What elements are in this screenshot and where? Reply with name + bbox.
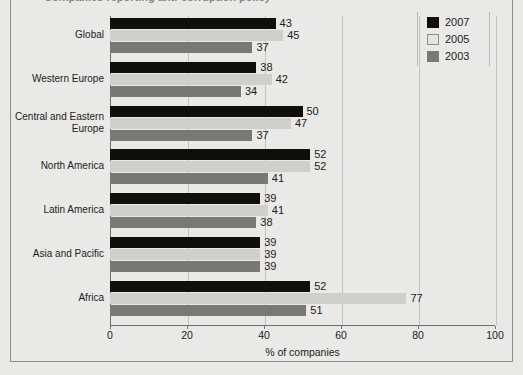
bar-value-label: 41 [268, 171, 284, 185]
category-label-asia-and-pacific: Asia and Pacific [4, 248, 104, 260]
bar-2007[interactable] [110, 62, 256, 73]
chart-title: Companies reporting anti-corruption poli… [44, 0, 464, 3]
bar-2005[interactable] [110, 293, 406, 304]
bar-2005[interactable] [110, 249, 260, 260]
legend-swatch-2007 [427, 17, 439, 28]
x-tick-label-20: 20 [167, 329, 207, 341]
category-label-africa: Africa [4, 292, 104, 304]
chart-figure: Companies reporting anti-corruption poli… [0, 0, 523, 375]
bar-row: 41 [110, 205, 523, 216]
bar-row: 39 [110, 261, 523, 272]
category-label-line: Europe [4, 123, 104, 135]
legend-label-2007: 2007 [445, 16, 469, 29]
category-label-latin-america: Latin America [4, 204, 104, 216]
bar-2007[interactable] [110, 193, 260, 204]
bar-2003[interactable] [110, 261, 260, 272]
x-axis-label: % of companies [110, 346, 495, 358]
bar-value-label: 37 [252, 128, 268, 142]
bar-group: 527751 [110, 281, 523, 319]
bar-group: 394138 [110, 193, 523, 231]
bar-value-label: 38 [256, 215, 272, 229]
legend-label-2003: 2003 [445, 50, 469, 63]
bar-value-label: 52 [310, 279, 326, 293]
x-tick-label-60: 60 [321, 329, 361, 341]
legend-swatch-2005 [427, 34, 439, 45]
bar-row: 38 [110, 217, 523, 228]
bar-2007[interactable] [110, 237, 260, 248]
bar-value-label: 39 [260, 259, 276, 273]
bar-row: 39 [110, 249, 523, 260]
category-label-line: Latin America [4, 204, 104, 216]
category-label-global: Global [4, 29, 104, 41]
bar-2003[interactable] [110, 217, 256, 228]
legend-divider-right [489, 12, 490, 66]
legend-divider-left [417, 12, 418, 66]
bar-value-label: 47 [291, 116, 307, 130]
category-label-line: Asia and Pacific [4, 248, 104, 260]
bar-value-label: 51 [306, 303, 322, 317]
bar-value-label: 37 [252, 40, 268, 54]
category-label-western-europe: Western Europe [4, 73, 104, 85]
bar-2003[interactable] [110, 173, 268, 184]
x-tick-label-80: 80 [398, 329, 438, 341]
category-label-line: Central and Eastern [4, 111, 104, 123]
bar-2003[interactable] [110, 305, 306, 316]
category-label-central-and-eastern-europe: Central and EasternEurope [4, 111, 104, 135]
bar-row: 52 [110, 281, 523, 292]
category-label-line: North America [4, 160, 104, 172]
x-tick-label-100: 100 [475, 329, 515, 341]
bar-2007[interactable] [110, 149, 310, 160]
legend-item-2007[interactable]: 2007 [427, 14, 489, 31]
bar-row: 39 [110, 237, 523, 248]
bar-value-label: 38 [256, 60, 272, 74]
bar-2007[interactable] [110, 281, 310, 292]
bar-2003[interactable] [110, 42, 252, 53]
x-tick-label-0: 0 [90, 329, 130, 341]
bar-row: 41 [110, 173, 523, 184]
bar-value-label: 34 [241, 84, 257, 98]
bar-group: 525241 [110, 149, 523, 187]
category-label-line: Western Europe [4, 73, 104, 85]
bar-group: 393939 [110, 237, 523, 275]
bar-row: 47 [110, 118, 523, 129]
legend-label-2005: 2005 [445, 33, 469, 46]
x-tick-label-40: 40 [244, 329, 284, 341]
legend-item-2005[interactable]: 2005 [427, 31, 489, 48]
bar-row: 39 [110, 193, 523, 204]
bar-value-label: 77 [406, 291, 422, 305]
bar-group: 384234 [110, 62, 523, 100]
bar-value-label: 45 [283, 28, 299, 42]
bar-2007[interactable] [110, 106, 303, 117]
bar-group: 504737 [110, 106, 523, 144]
bar-row: 51 [110, 305, 523, 316]
legend-swatch-2003 [427, 51, 439, 62]
figure-bottom-band [0, 365, 523, 375]
bar-value-label: 42 [272, 72, 288, 86]
bar-2007[interactable] [110, 18, 276, 29]
chart-legend: 200720052003 [427, 14, 489, 65]
category-label-line: Global [4, 29, 104, 41]
bar-2005[interactable] [110, 205, 268, 216]
category-label-north-america: North America [4, 160, 104, 172]
bar-value-label: 52 [310, 159, 326, 173]
bar-row: 50 [110, 106, 523, 117]
bar-2003[interactable] [110, 86, 241, 97]
bar-row: 37 [110, 130, 523, 141]
bar-2003[interactable] [110, 130, 252, 141]
bar-row: 34 [110, 86, 523, 97]
bar-row: 52 [110, 161, 523, 172]
bar-row: 42 [110, 74, 523, 85]
legend-item-2003[interactable]: 2003 [427, 48, 489, 65]
category-label-line: Africa [4, 292, 104, 304]
